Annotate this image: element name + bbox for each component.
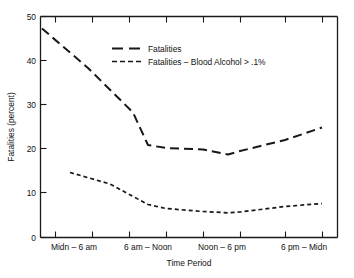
- legend-item-fatalities: Fatalities: [112, 44, 182, 54]
- y-tick-label-0: 0: [31, 233, 36, 243]
- y-tick-label-50: 50: [27, 12, 37, 22]
- series-line-fatalities: [42, 29, 322, 155]
- x-tick-label-noon-6pm: Noon – 6 pm: [198, 242, 246, 252]
- x-axis-tick-labels: Midn – 6 am 6 am – Noon Noon – 6 pm 6 pm…: [51, 242, 327, 252]
- plot-frame: [41, 17, 338, 238]
- y-axis-tick-labels: 50 40 30 20 10 0: [27, 12, 37, 243]
- x-tick-label-midn-6am: Midn – 6 am: [51, 242, 97, 252]
- x-tick-label-6pm-midn: 6 pm – Midn: [281, 242, 327, 252]
- legend-label-alcohol: Fatalities – Blood Alcohol > .1%: [148, 57, 266, 67]
- x-axis-title: Time Period: [167, 258, 212, 268]
- y-tick-label-20: 20: [27, 144, 37, 154]
- y-tick-label-10: 10: [27, 188, 37, 198]
- legend-item-alcohol: Fatalities – Blood Alcohol > .1%: [112, 57, 266, 67]
- y-tick-label-30: 30: [27, 100, 37, 110]
- y-tick-label-40: 40: [27, 56, 37, 66]
- series-line-alcohol: [70, 173, 322, 213]
- x-tick-label-6am-noon: 6 am – Noon: [124, 242, 172, 252]
- x-axis-ticks-bottom: [56, 232, 323, 238]
- chart-figure: 50 40 30 20 10 0 Fatalities (percent): [0, 0, 354, 278]
- line-chart: 50 40 30 20 10 0 Fatalities (percent): [0, 0, 354, 278]
- chart-legend: Fatalities Fatalities – Blood Alcohol > …: [112, 44, 266, 67]
- x-axis-ticks-top: [56, 17, 323, 23]
- legend-label-fatalities: Fatalities: [148, 44, 182, 54]
- y-axis-ticks: [41, 17, 47, 238]
- y-axis-title: Fatalities (percent): [6, 92, 16, 162]
